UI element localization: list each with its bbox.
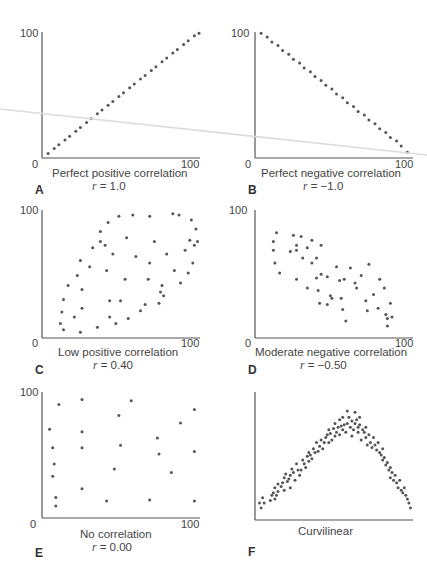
data-point [374, 443, 377, 446]
data-point [57, 143, 60, 146]
data-point [358, 416, 361, 419]
data-point [334, 435, 337, 438]
data-point [178, 214, 181, 217]
data-point [292, 471, 295, 474]
data-point [54, 505, 57, 508]
data-point [128, 86, 131, 89]
data-point [320, 79, 323, 82]
panel-e: 100 0 100 No correlation r = 0.00 E [0, 360, 213, 543]
data-point [270, 40, 273, 43]
data-point [377, 307, 380, 310]
panel-c: 100 0 100 Low positive correlation r = 0… [0, 178, 213, 361]
data-point [101, 109, 104, 112]
data-point [301, 256, 304, 259]
data-point [260, 506, 263, 509]
data-point [369, 441, 372, 444]
data-point [125, 236, 128, 239]
data-point [161, 284, 164, 287]
data-point [85, 121, 88, 124]
data-point [355, 287, 358, 290]
data-point [344, 319, 347, 322]
data-point [286, 480, 289, 483]
data-point [117, 215, 120, 218]
data-point [394, 474, 397, 477]
data-point [338, 418, 341, 421]
data-point [337, 426, 340, 429]
data-point [363, 114, 366, 117]
data-point [309, 70, 312, 73]
data-point [272, 249, 275, 252]
data-point [324, 84, 327, 87]
data-point [51, 475, 54, 478]
data-point [263, 501, 266, 504]
data-point [357, 110, 360, 113]
data-point [320, 273, 323, 276]
x-tick-0: 0 [32, 338, 38, 349]
data-point [48, 428, 51, 431]
data-point [363, 431, 366, 434]
data-point [88, 265, 91, 268]
data-point [346, 409, 349, 412]
data-point [366, 309, 369, 312]
data-point [111, 253, 114, 256]
data-point [391, 471, 394, 474]
data-point [105, 269, 108, 272]
data-point [312, 447, 315, 450]
data-point [346, 101, 349, 104]
data-point [318, 445, 321, 448]
data-point [389, 136, 392, 139]
data-point [327, 428, 330, 431]
data-point [99, 230, 102, 233]
data-point [187, 39, 190, 42]
data-point [341, 416, 344, 419]
panel-title: Low positive correlation [58, 347, 178, 359]
data-point [367, 119, 370, 122]
data-point [158, 453, 161, 456]
data-point [318, 302, 321, 305]
data-point [300, 469, 303, 472]
data-point [105, 500, 108, 503]
data-point [304, 466, 307, 469]
data-point [198, 32, 201, 35]
data-point [361, 428, 364, 431]
data-point [344, 431, 347, 434]
data-point [335, 431, 338, 434]
x-tick-0: 0 [30, 519, 36, 530]
data-point [289, 486, 292, 489]
panel-title: No correlation [80, 529, 152, 541]
data-point [330, 297, 333, 300]
data-point [273, 486, 276, 489]
data-point [297, 469, 300, 472]
data-point [320, 438, 323, 441]
data-point [51, 446, 54, 449]
data-point [119, 299, 122, 302]
panel-letter: E [35, 547, 43, 559]
data-point [375, 449, 378, 452]
data-point [158, 302, 161, 305]
data-point [289, 250, 292, 253]
data-point [378, 451, 381, 454]
data-point [266, 36, 269, 39]
data-point [387, 469, 390, 472]
data-point [346, 422, 349, 425]
data-point [117, 414, 120, 417]
data-point [360, 438, 363, 441]
data-point [358, 423, 361, 426]
x-tick-0: 0 [245, 338, 251, 349]
data-point [117, 95, 120, 98]
data-point [287, 53, 290, 56]
data-point [310, 457, 313, 460]
data-point [60, 311, 63, 314]
data-point [187, 272, 190, 275]
panel-title: Moderate negative correlation [255, 347, 407, 359]
data-point [272, 491, 275, 494]
data-point [309, 454, 312, 457]
x-tick-0: 0 [32, 159, 38, 170]
data-point [179, 422, 182, 425]
data-point [124, 278, 127, 281]
data-point [383, 456, 386, 459]
data-point [81, 430, 84, 433]
data-point [306, 246, 309, 249]
data-point [329, 294, 332, 297]
data-point [261, 496, 264, 499]
